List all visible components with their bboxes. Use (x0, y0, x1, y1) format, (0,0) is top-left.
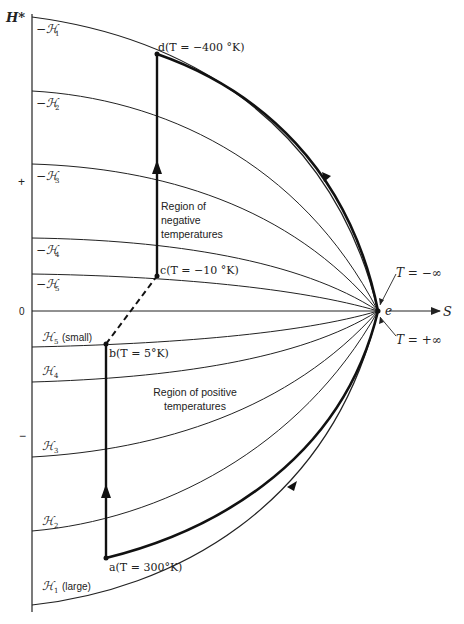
path-b-to-c-dashed (106, 276, 157, 344)
point-b (104, 342, 109, 347)
label-point-b: b(T = 5°K) (109, 347, 169, 360)
curve-neg-h5 (32, 274, 378, 311)
svg-text:4: 4 (55, 251, 60, 259)
svg-text:3: 3 (55, 177, 59, 185)
svg-text:5: 5 (55, 285, 59, 293)
label-neg-h3: −ℋ 3 (36, 169, 60, 185)
svg-text:negative: negative (161, 214, 201, 226)
label-neg-h1: −ℋ 1 (36, 22, 60, 38)
region-negative-label: Region of negative temperatures (161, 200, 223, 240)
label-pos-h5: ℋ 5 (small) (42, 330, 92, 346)
label-t-plus-infinity: T = +∞ (396, 333, 442, 347)
point-a (104, 556, 109, 561)
svg-text:5: 5 (54, 338, 58, 346)
label-neg-h2: −ℋ 2 (36, 96, 60, 112)
svg-text:Region of: Region of (161, 200, 206, 212)
svg-text:(large): (large) (62, 581, 91, 592)
label-point-a: a(T = 300°K) (109, 561, 182, 574)
x-axis-label: S (443, 304, 452, 319)
label-pos-h3: ℋ 3 (42, 439, 58, 455)
pointer-t-plus-inf (380, 317, 396, 336)
label-pos-h4: ℋ 4 (42, 364, 59, 380)
curve-pos-h4 (32, 311, 378, 382)
y-axis-label: H* (5, 10, 25, 25)
svg-text:Region of positive: Region of positive (153, 386, 237, 398)
label-t-minus-infinity: T = −∞ (396, 266, 442, 280)
tick-plus: + (18, 175, 25, 189)
curve-pos-h1 (32, 311, 378, 605)
svg-text:2: 2 (54, 522, 58, 530)
point-e (376, 309, 381, 314)
label-point-e: e (385, 304, 392, 318)
point-c (155, 274, 160, 279)
svg-text:(small): (small) (62, 332, 92, 343)
arrow-a-to-b (101, 484, 111, 498)
svg-text:temperatures: temperatures (164, 400, 226, 412)
arrow-c-to-d (152, 160, 162, 174)
diagram-canvas: H* S + 0 − −ℋ 1 −ℋ 2 −ℋ 3 −ℋ 4 −ℋ 5 ℋ 5 … (0, 0, 464, 624)
label-pos-h2: ℋ 2 (42, 514, 58, 530)
label-pos-h1: ℋ 1 (large) (42, 579, 91, 595)
label-point-d: d(T = −400 °K) (158, 41, 245, 54)
svg-text:2: 2 (55, 104, 59, 112)
svg-text:temperatures: temperatures (161, 228, 223, 240)
region-positive-label: Region of positive temperatures (153, 386, 237, 412)
label-point-c: c(T = −10 °K) (160, 264, 239, 277)
svg-text:3: 3 (54, 447, 58, 455)
label-neg-h5: −ℋ 5 (36, 277, 60, 293)
label-neg-h4: −ℋ 4 (36, 243, 60, 259)
svg-text:4: 4 (54, 372, 59, 380)
svg-text:1: 1 (55, 30, 59, 38)
tick-zero: 0 (19, 306, 25, 317)
tick-minus: − (19, 429, 26, 443)
svg-text:1: 1 (54, 587, 58, 595)
